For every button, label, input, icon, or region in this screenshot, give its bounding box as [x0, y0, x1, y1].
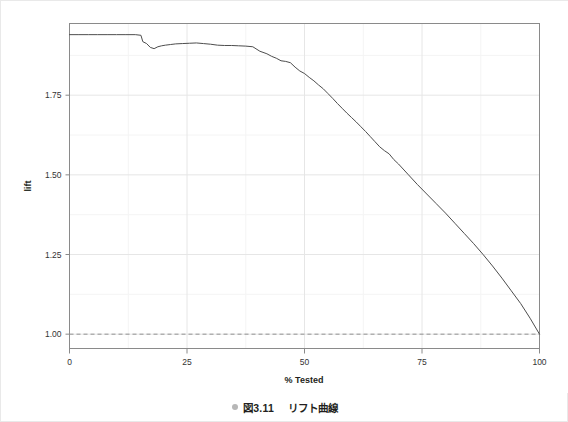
x-axis-title: % Tested — [285, 375, 324, 385]
x-tick-label: 50 — [300, 357, 310, 367]
x-tick-label: 0 — [67, 357, 72, 367]
lift-curve-chart: 1.001.251.501.75 0255075100 % Tested lif… — [1, 1, 568, 393]
bullet-dot-icon — [232, 404, 238, 410]
y-tick-label: 1.25 — [45, 250, 62, 260]
y-axis-title: lift — [23, 181, 33, 192]
chart-svg: 1.001.251.501.75 0255075100 % Tested lif… — [1, 1, 568, 393]
y-tick-label: 1.50 — [45, 170, 62, 180]
figure-caption: 図3.11 リフト曲線 — [1, 393, 568, 421]
x-tick-label: 100 — [532, 357, 546, 367]
y-tick-label: 1.75 — [45, 90, 62, 100]
figure-container: 1.001.251.501.75 0255075100 % Tested lif… — [0, 0, 568, 422]
caption-figure-number: 図3.11 — [243, 400, 274, 415]
x-tick-label: 25 — [182, 357, 192, 367]
x-tick-label: 75 — [417, 357, 427, 367]
y-tick-label: 1.00 — [45, 329, 62, 339]
caption-figure-title: リフト曲線 — [288, 400, 338, 415]
